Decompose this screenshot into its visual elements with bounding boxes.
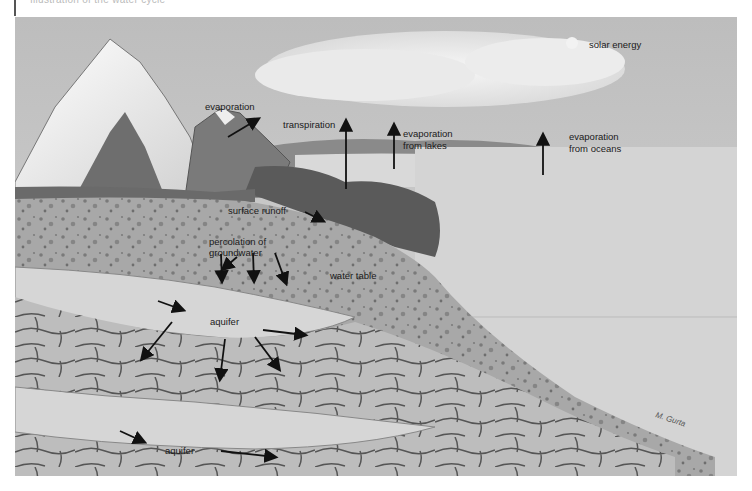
label-evaporation-oceans-2: from oceans — [569, 143, 621, 155]
label-water-table: water table — [330, 270, 376, 282]
illustration-canvas: M. Gurta — [15, 17, 737, 476]
label-transpiration: transpiration — [283, 119, 335, 131]
label-evaporation: evaporation — [205, 101, 255, 113]
label-evaporation-oceans-1: evaporation — [569, 131, 619, 143]
label-surface-runoff: surface runoff — [228, 205, 286, 217]
label-evaporation-lakes-2: from lakes — [403, 140, 447, 152]
label-evaporation-lakes-1: evaporation — [403, 128, 453, 140]
figure-caption: Illustration of the water cycle — [30, 0, 165, 5]
label-percolation-2: groundwater — [209, 247, 262, 259]
caption-rule — [14, 0, 16, 16]
water-cycle-illustration: M. Gurta solar energy evaporation transp… — [15, 17, 737, 476]
label-aquifer-upper: aquifer — [210, 316, 239, 328]
label-aquifer-lower: aquifer — [165, 445, 194, 457]
label-solar-energy: solar energy — [589, 39, 641, 51]
sun — [566, 37, 578, 49]
